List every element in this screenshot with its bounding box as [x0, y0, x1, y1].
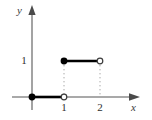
- open-point-x2-y1: [97, 58, 103, 64]
- closed-point-origin: [29, 94, 36, 101]
- open-point-x1-y0: [61, 94, 67, 100]
- step-function-figure: y x 1 1 2: [0, 0, 152, 120]
- y-axis-arrowhead: [28, 5, 35, 15]
- x-tick-label-1: 1: [59, 102, 69, 113]
- x-axis-label: x: [131, 102, 136, 113]
- closed-point-x1-y1: [61, 58, 68, 65]
- y-tick-label-1: 1: [19, 55, 29, 66]
- x-axis-arrowhead: [129, 93, 140, 100]
- x-tick-label-2: 2: [95, 102, 105, 113]
- y-axis-label: y: [17, 5, 22, 16]
